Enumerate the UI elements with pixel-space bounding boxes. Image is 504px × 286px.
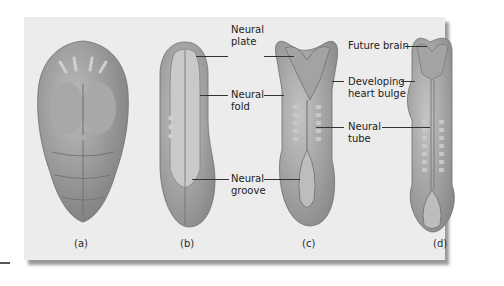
embryo-a [38,41,129,222]
label-future-brain: Future brain [348,40,409,52]
leader-neural-plate [196,56,228,57]
caption-d: (d) [433,238,447,249]
leader-c-fold [264,95,284,96]
embryo-c [275,41,337,226]
label-heart-bulge: Developing heart bulge [348,76,406,100]
caption-a: (a) [74,238,88,249]
label-neural-fold: Neural fold [231,89,264,113]
leader-c-plate [264,56,294,57]
leader-neural-tube-left [316,127,344,128]
embryo-d [407,38,454,232]
label-neural-tube: Neural tube [348,121,381,145]
embryo-b [160,42,215,227]
leader-neural-groove [192,179,229,180]
caption-b: (b) [180,238,194,249]
leader-heart-bulge-left [332,81,344,82]
label-neural-groove: Neural groove [231,173,266,197]
leader-neural-tube-right [382,127,430,128]
page-rule-fragment [0,262,10,264]
leader-neural-fold [200,95,228,96]
caption-c: (c) [302,238,315,249]
leader-c-groove [264,179,300,180]
label-neural-plate: Neural plate [231,24,264,48]
